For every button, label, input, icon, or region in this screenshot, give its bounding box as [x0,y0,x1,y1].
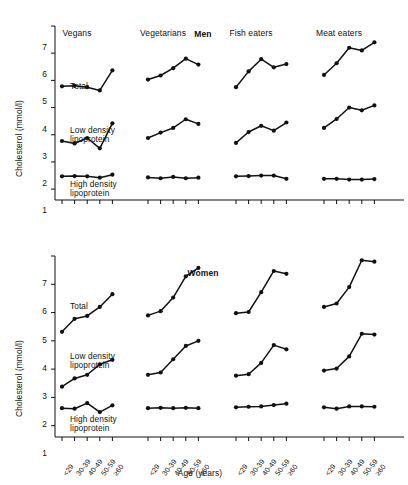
y-tick-label: 3 [35,151,47,161]
series-label-hdl-women: High densitylipoprotein [70,415,117,434]
group-title-meat-eaters: Meat eaters [302,28,376,38]
panel-men: Men Cholesterol (mmol/l) 1234567VegansVe… [0,8,408,220]
y-tick-label: 6 [35,69,47,79]
x-tick-label: <29 [61,462,76,477]
y-tick-label: 4 [35,124,47,134]
group-title-vegetarians: Vegetarians [126,28,200,38]
y-tick-label: 7 [35,42,47,52]
series-label-line: lipoprotein [70,424,117,433]
y-tick-label: 1 [35,205,47,215]
x-tick-label: <29 [323,462,338,477]
series-label-total-men: Total [70,82,88,91]
series-label-ldl-men: Low densitylipoprotein [70,126,115,145]
y-tick-label: 7 [35,278,47,288]
y-tick-label: 2 [35,178,47,188]
x-axis-title: Age (years) [140,468,260,478]
series-label-line: Total [70,82,88,91]
panel-women: Women Cholesterol (mmol/l) 1234567<2930-… [0,232,408,464]
plot-area-men [0,8,408,220]
series-label-line: Total [70,302,88,311]
y-tick-label: 1 [35,448,47,458]
series-label-hdl-men: High densitylipoprotein [70,180,117,199]
series-label-line: lipoprotein [70,189,117,198]
y-tick-label: 6 [35,306,47,316]
y-tick-label: 4 [35,363,47,373]
series-label-ldl-women: Low densitylipoprotein [70,352,115,371]
series-label-line: lipoprotein [70,135,115,144]
series-label-line: lipoprotein [70,361,115,370]
group-title-vegans: Vegans [40,28,114,38]
series-label-total-women: Total [70,302,88,311]
plot-area-women [0,232,408,464]
cholesterol-figure: Men Cholesterol (mmol/l) 1234567VegansVe… [0,0,408,485]
y-tick-label: 2 [35,419,47,429]
y-tick-label: 5 [35,335,47,345]
group-title-fish-eaters: Fish eaters [214,28,288,38]
y-tick-label: 5 [35,96,47,106]
y-tick-label: 3 [35,391,47,401]
